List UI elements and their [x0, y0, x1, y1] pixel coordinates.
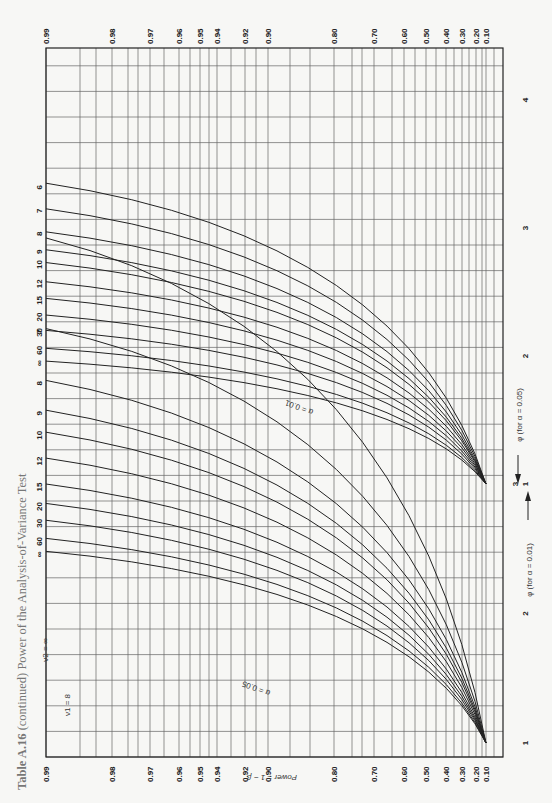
- svg-text:Table A.16 (continued) Power o: Table A.16 (continued) Power of the Anal…: [15, 473, 29, 790]
- svg-text:0.20: 0.20: [472, 28, 481, 44]
- svg-text:0.60: 0.60: [400, 28, 409, 44]
- svg-text:0.80: 0.80: [330, 766, 339, 782]
- svg-text:0.94: 0.94: [213, 766, 222, 782]
- svg-text:4: 4: [521, 97, 530, 102]
- svg-text:2: 2: [521, 611, 530, 616]
- svg-text:0.60: 0.60: [400, 766, 409, 782]
- svg-text:12: 12: [35, 456, 44, 465]
- svg-text:60: 60: [35, 345, 44, 354]
- svg-text:0.10: 0.10: [482, 28, 491, 44]
- svg-text:12: 12: [35, 279, 44, 288]
- svg-text:9: 9: [35, 249, 44, 254]
- y-axis-label: Power = 1 − β: [247, 773, 297, 782]
- plot-frame: [46, 48, 503, 757]
- svg-text:φ (for α = 0.01): φ (for α = 0.01): [525, 543, 534, 597]
- svg-text:7: 7: [35, 208, 44, 213]
- svg-text:8: 8: [35, 231, 44, 236]
- phi-label-alpha-001: φ (for α = 0.01): [525, 543, 534, 597]
- svg-text:0.99: 0.99: [42, 766, 51, 782]
- svg-text:0.94: 0.94: [213, 28, 222, 44]
- svg-text:1: 1: [521, 481, 530, 486]
- svg-text:0.97: 0.97: [146, 28, 155, 44]
- svg-text:1: 1: [521, 740, 530, 745]
- svg-text:0.40: 0.40: [442, 28, 451, 44]
- svg-text:0.70: 0.70: [370, 28, 379, 44]
- svg-text:10: 10: [35, 430, 44, 439]
- svg-text:15: 15: [35, 482, 44, 491]
- svg-text:0.10: 0.10: [482, 766, 491, 782]
- svg-text:3: 3: [511, 481, 520, 486]
- power-chart: Table A.16 (continued) Power of the Anal…: [0, 0, 552, 803]
- svg-text:0.50: 0.50: [422, 766, 431, 782]
- svg-text:9: 9: [35, 410, 44, 415]
- svg-text:0.50: 0.50: [422, 28, 431, 44]
- svg-text:0.30: 0.30: [458, 766, 467, 782]
- svg-text:0.96: 0.96: [175, 766, 184, 782]
- svg-text:20: 20: [35, 501, 44, 510]
- svg-text:2: 2: [521, 353, 530, 358]
- svg-text:φ (for α = 0.05): φ (for α = 0.05): [515, 388, 524, 442]
- svg-text:0.97: 0.97: [146, 766, 155, 782]
- svg-text:0.98: 0.98: [108, 766, 117, 782]
- svg-text:15: 15: [35, 295, 44, 304]
- curve-labels: 6789101215203060∞789101215203060∞: [35, 184, 44, 557]
- svg-text:0.96: 0.96: [175, 28, 184, 44]
- nu1-label: ν1 = 8: [63, 693, 72, 716]
- svg-text:0.40: 0.40: [442, 766, 451, 782]
- svg-text:0.95: 0.95: [196, 28, 205, 44]
- svg-text:8: 8: [35, 381, 44, 386]
- svg-text:0.30: 0.30: [458, 28, 467, 44]
- svg-text:60: 60: [35, 536, 44, 545]
- svg-text:30: 30: [35, 518, 44, 527]
- svg-text:3: 3: [521, 225, 530, 230]
- nu2-label: ν2 = ∞: [41, 638, 50, 662]
- svg-text:Power = 1 − β: Power = 1 − β: [247, 773, 297, 782]
- svg-text:0.20: 0.20: [472, 766, 481, 782]
- chart-title: Table A.16 (continued) Power of the Anal…: [15, 473, 29, 790]
- svg-text:7: 7: [35, 329, 44, 334]
- svg-text:ν2 = ∞: ν2 = ∞: [41, 638, 50, 662]
- svg-text:0.98: 0.98: [108, 28, 117, 44]
- svg-text:0.80: 0.80: [330, 28, 339, 44]
- svg-text:10: 10: [35, 260, 44, 269]
- gridlines: [46, 48, 503, 757]
- svg-text:20: 20: [35, 312, 44, 321]
- svg-text:0.95: 0.95: [196, 766, 205, 782]
- phi-label-alpha-005: φ (for α = 0.05): [515, 388, 524, 442]
- power-ticks-top: 0.990.980.970.960.950.940.920.900.800.70…: [42, 28, 491, 44]
- svg-text:ν1 = 8: ν1 = 8: [63, 693, 72, 716]
- svg-text:∞: ∞: [35, 551, 44, 557]
- svg-text:0.99: 0.99: [42, 28, 51, 44]
- arrow-head-001: [525, 491, 531, 501]
- svg-text:0.70: 0.70: [370, 766, 379, 782]
- svg-text:0.90: 0.90: [264, 28, 273, 44]
- svg-text:∞: ∞: [35, 360, 44, 366]
- svg-text:6: 6: [35, 184, 44, 189]
- svg-text:0.92: 0.92: [241, 28, 250, 44]
